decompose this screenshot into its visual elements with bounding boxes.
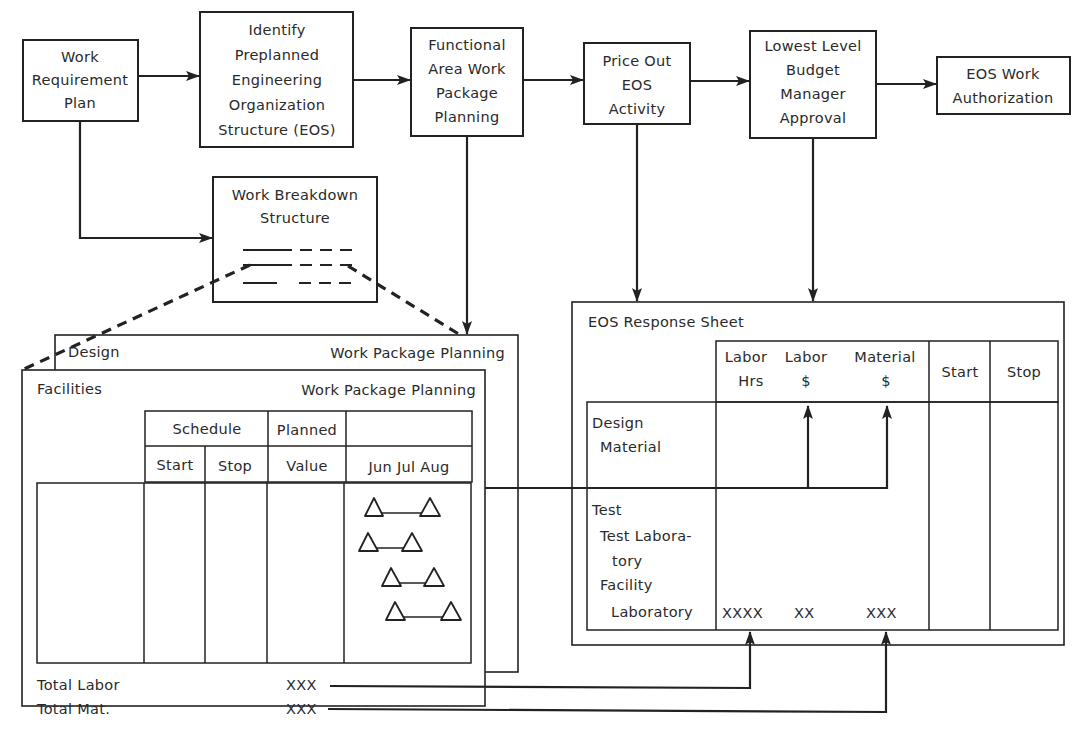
label: Budget [786, 62, 840, 78]
sheet-label: Facilities [37, 381, 102, 397]
header-material-dollars: $ [881, 373, 891, 389]
header-labor-hrs: Labor [725, 349, 768, 365]
value-labor-hrs: XXXX [722, 605, 763, 621]
sheet-facilities: Facilities Work Package Planning Schedul… [22, 370, 485, 717]
label: Engineering [232, 72, 322, 88]
label: Work [61, 49, 99, 65]
header-stop: Stop [1007, 364, 1041, 380]
label: Area Work [428, 61, 506, 77]
row-design: Design [592, 415, 644, 431]
header-months: Jun Jul Aug [368, 459, 450, 475]
label: Package [436, 85, 498, 101]
row-facility-laboratory: Laboratory [611, 604, 693, 620]
box-price-out: Price Out EOS Activity [584, 43, 690, 124]
label: Lowest Level [764, 38, 861, 54]
label: Price Out [603, 53, 672, 69]
sheet-eos-response: EOS Response Sheet Labor Hrs Labor $ Mat… [485, 302, 1064, 645]
box-work-requirement-plan: Work Requirement Plan [23, 40, 138, 121]
total-mat-value: XXX [286, 701, 317, 717]
label: Functional [428, 37, 506, 53]
label: Structure (EOS) [218, 122, 336, 138]
eos-workflow-diagram: Work Requirement Plan Identify Preplanne… [0, 0, 1090, 742]
box-work-breakdown-structure: Work Breakdown Structure [213, 177, 377, 302]
row-test-laboratory: tory [612, 553, 642, 569]
total-labor-label: Total Labor [36, 677, 120, 693]
header-start: Start [942, 364, 979, 380]
row-test: Test [591, 502, 622, 518]
label: EOS Work [966, 66, 1040, 82]
sheet-title: EOS Response Sheet [588, 314, 744, 330]
header-stop: Stop [218, 458, 252, 474]
label: Preplanned [235, 47, 320, 63]
row-design-material: Material [600, 439, 661, 455]
total-mat-label: Total Mat. [36, 701, 110, 717]
box-functional-area: Functional Area Work Package Planning [411, 28, 523, 136]
label: Plan [64, 95, 96, 111]
value-material-dollars: XXX [866, 605, 897, 621]
label: EOS [622, 77, 653, 93]
box-eos-authorization: EOS Work Authorization [937, 57, 1070, 114]
label: Work Breakdown [232, 187, 358, 203]
label: Requirement [32, 72, 129, 88]
header-labor-hrs: Hrs [738, 373, 763, 389]
label: Identify [248, 22, 305, 38]
label: Planning [435, 109, 500, 125]
row-test-laboratory: Test Labora- [599, 528, 692, 544]
header-schedule: Schedule [172, 421, 241, 437]
label: Authorization [952, 90, 1053, 106]
header-labor-dollars: $ [801, 373, 811, 389]
sheet-title: Work Package Planning [330, 345, 505, 361]
box-budget-manager: Lowest Level Budget Manager Approval [750, 31, 876, 138]
sheet-title: Work Package Planning [301, 382, 476, 398]
header-labor-dollars: Labor [785, 349, 828, 365]
value-labor-dollars: XX [794, 605, 814, 621]
box-identify-eos: Identify Preplanned Engineering Organiza… [200, 12, 353, 147]
header-planned: Planned [277, 422, 337, 438]
header-start: Start [157, 457, 194, 473]
label: Activity [609, 101, 666, 117]
label: Approval [780, 110, 847, 126]
label: Structure [260, 210, 330, 226]
total-labor-value: XXX [286, 677, 317, 693]
connector-wrp-to-wbs [80, 121, 212, 238]
row-facility: Facility [600, 577, 653, 593]
label: Organization [229, 97, 325, 113]
header-material-dollars: Material [854, 349, 915, 365]
label: Manager [780, 86, 846, 102]
header-value: Value [286, 458, 327, 474]
